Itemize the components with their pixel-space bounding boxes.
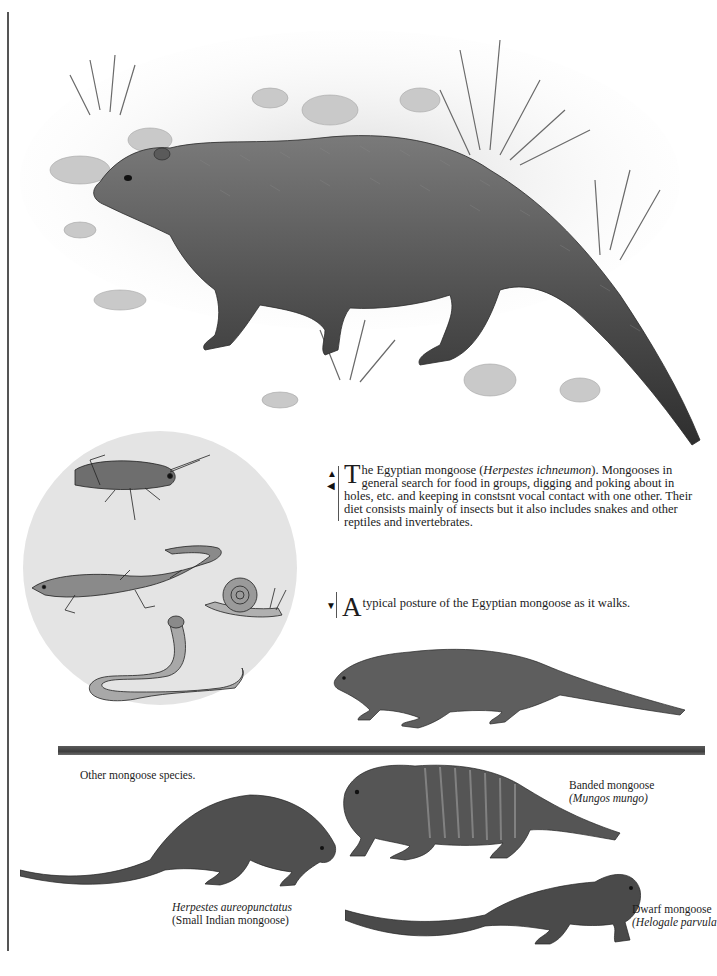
arrow-down-icon: ▼	[326, 601, 336, 611]
egyptian-mongoose-illustration	[20, 20, 705, 460]
common-name: (Small Indian mongoose)	[172, 914, 292, 927]
arrow-up-icon: ▲	[327, 469, 337, 479]
caption-lead: he Egyptian mongoose (	[362, 463, 484, 477]
scientific-name: (Helogale parvula	[632, 916, 717, 929]
caption-body: typical posture of the Egyptian mongoose…	[363, 596, 631, 610]
section-heading: Other mongoose species.	[80, 769, 195, 782]
banded-mongoose-label: Banded mongoose (Mungos mungo)	[569, 779, 654, 805]
common-name: Banded mongoose	[569, 779, 654, 792]
banded-mongoose-illustration	[335, 758, 625, 868]
main-caption: The Egyptian mongoose (Herpestes ichneum…	[344, 464, 696, 529]
dwarf-mongoose-illustration	[345, 860, 645, 950]
dwarf-mongoose-label: Dwarf mongoose (Helogale parvula	[632, 903, 717, 929]
arrow-left-icon: ◀	[327, 481, 335, 491]
common-name: Dwarf mongoose	[632, 903, 717, 916]
dropcap-t: T	[344, 464, 361, 484]
walking-mongoose-illustration	[330, 640, 690, 735]
dropcap-a: A	[342, 597, 362, 617]
caption-rule	[338, 466, 339, 521]
walking-caption: A typical posture of the Egyptian mongoo…	[342, 597, 702, 617]
margin-rule	[7, 12, 9, 951]
small-indian-mongoose-illustration	[20, 790, 340, 900]
small-indian-mongoose-label: Herpestes aureopunctatus (Small Indian m…	[172, 901, 292, 927]
caption-rule-2	[336, 592, 337, 618]
scientific-name: Herpestes aureopunctatus	[172, 901, 292, 914]
species-name: Herpestes ichneumon	[483, 463, 591, 477]
scientific-name: (Mungos mungo)	[569, 792, 654, 805]
section-divider	[58, 746, 705, 755]
prey-circle-illustration	[20, 430, 300, 710]
